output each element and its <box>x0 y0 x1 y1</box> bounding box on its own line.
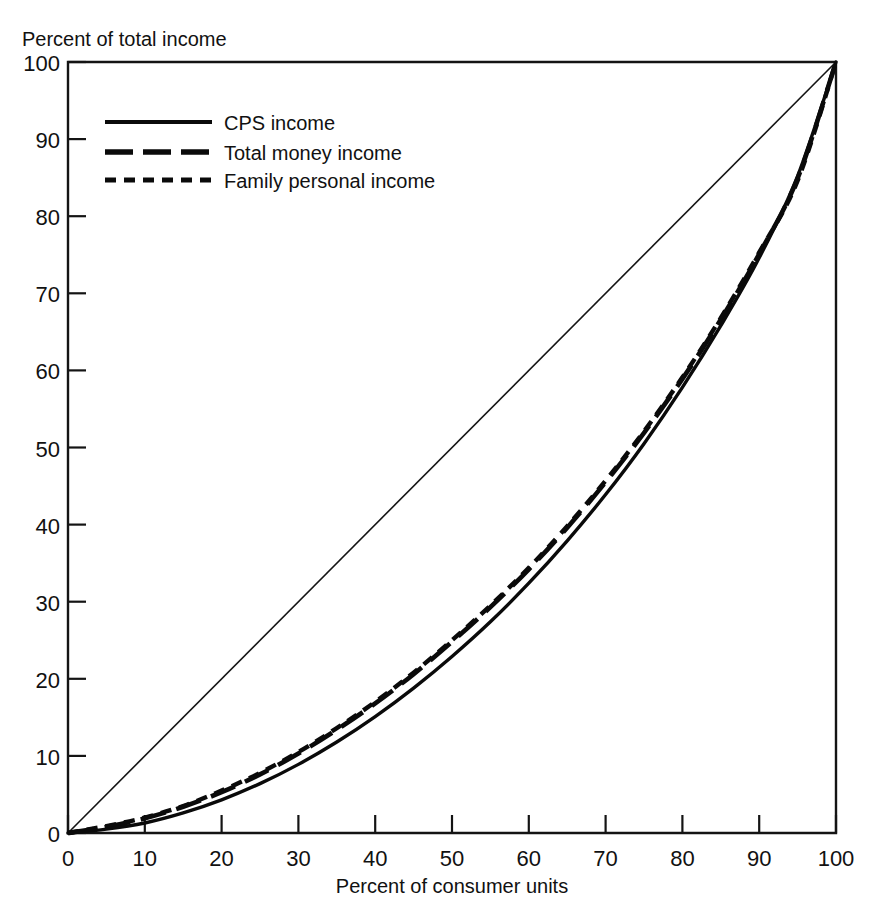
legend-label-family-personal-income: Family personal income <box>224 170 435 192</box>
y-axis-ticks <box>68 62 86 833</box>
x-tick-label: 80 <box>670 846 694 871</box>
y-tick-label: 50 <box>36 437 60 462</box>
y-tick-label: 90 <box>36 128 60 153</box>
y-tick-label: 80 <box>36 205 60 230</box>
x-tick-label: 0 <box>62 846 74 871</box>
y-tick-label: 30 <box>36 591 60 616</box>
lorenz-curve-chart-page: Percent of total income <box>0 0 870 904</box>
x-tick-label: 30 <box>286 846 310 871</box>
x-tick-label: 10 <box>133 846 157 871</box>
x-tick-label: 20 <box>209 846 233 871</box>
x-tick-label: 90 <box>747 846 771 871</box>
x-axis-tick-labels: 0 10 20 30 40 50 60 70 80 90 100 <box>62 846 854 871</box>
y-tick-label: 20 <box>36 668 60 693</box>
x-tick-label: 50 <box>440 846 464 871</box>
y-axis-tick-labels: 100 90 80 70 60 50 40 30 20 10 0 <box>23 51 60 847</box>
y-tick-label: 10 <box>36 745 60 770</box>
x-axis-ticks <box>68 815 836 833</box>
y-tick-label: 70 <box>36 282 60 307</box>
x-axis-title: Percent of consumer units <box>336 875 568 897</box>
y-tick-label: 0 <box>48 822 60 847</box>
x-tick-label: 40 <box>363 846 387 871</box>
x-tick-label: 60 <box>517 846 541 871</box>
x-tick-label: 70 <box>593 846 617 871</box>
legend-label-total-money-income: Total money income <box>224 142 402 164</box>
y-tick-label: 60 <box>36 359 60 384</box>
y-axis-title: Percent of total income <box>22 28 227 50</box>
chart-canvas: Percent of total income <box>0 0 870 904</box>
y-tick-label: 40 <box>36 514 60 539</box>
x-tick-label: 100 <box>818 846 855 871</box>
legend-label-cps-income: CPS income <box>224 112 335 134</box>
y-tick-label: 100 <box>23 51 60 76</box>
legend: CPS income Total money income Family per… <box>105 112 435 192</box>
